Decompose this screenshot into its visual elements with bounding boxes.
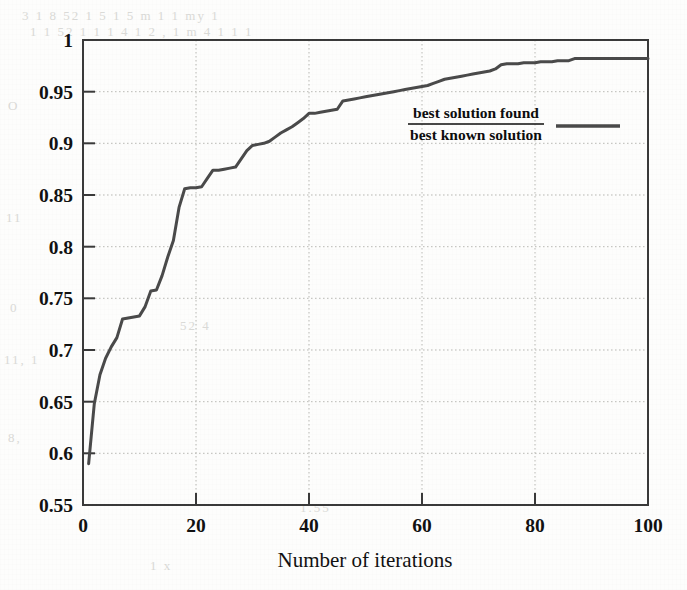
x-tick-label: 0 <box>78 515 88 536</box>
x-tick-label: 100 <box>633 515 662 536</box>
data-series-line <box>89 59 648 464</box>
x-tick-label: 80 <box>525 515 545 536</box>
y-axis-tick-labels: 1 0.95 0.9 0.85 0.8 0.75 0.7 0.65 0.6 0.… <box>39 30 73 516</box>
x-tick-label: 20 <box>186 515 206 536</box>
y-tick-label: 0.65 <box>39 392 73 413</box>
scanned-figure-page: 3 1 8 52 1 5 1 5 m 1 1 my 1 1 1 52 1 1 1… <box>0 0 687 590</box>
y-tick-label: 0.8 <box>49 237 74 258</box>
line-chart: 1 0.95 0.9 0.85 0.8 0.75 0.7 0.65 0.6 0.… <box>0 0 687 590</box>
horizontal-gridlines <box>83 40 648 453</box>
y-tick-label: 0.7 <box>49 340 74 361</box>
x-tick-label: 60 <box>412 515 432 536</box>
x-axis-tick-labels: 0 20 40 60 80 100 <box>78 515 663 536</box>
y-tick-label: 0.95 <box>39 82 73 103</box>
y-tick-label: 0.9 <box>49 133 74 154</box>
y-axis-ticks <box>83 40 95 505</box>
legend-denominator: best known solution <box>410 126 542 143</box>
y-tick-label: 0.55 <box>39 495 73 516</box>
x-axis-title: Number of iterations <box>278 548 453 572</box>
legend: best solution found best known solution <box>408 104 620 143</box>
y-tick-label: 1 <box>63 30 73 51</box>
y-tick-label: 0.6 <box>49 443 74 464</box>
x-axis-ticks <box>83 493 648 505</box>
y-tick-label: 0.85 <box>39 185 73 206</box>
plot-frame <box>83 40 648 505</box>
legend-numerator: best solution found <box>413 104 539 121</box>
y-tick-label: 0.75 <box>39 288 73 309</box>
x-tick-label: 40 <box>299 515 319 536</box>
